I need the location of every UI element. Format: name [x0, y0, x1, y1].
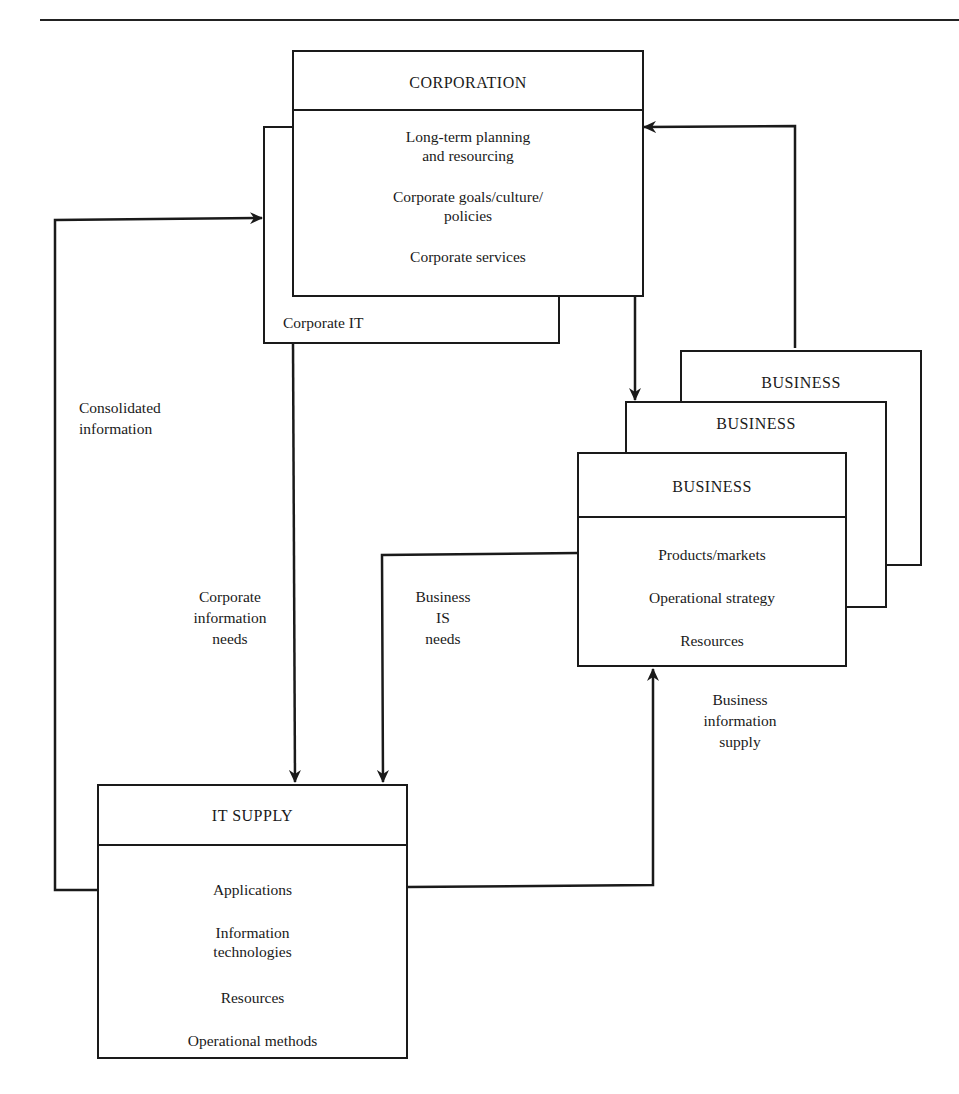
it-supply-box: IT SUPPLY Applications Information techn…	[97, 784, 408, 1059]
business-front-divider	[579, 516, 845, 518]
business-item-products: Products/markets	[579, 545, 845, 564]
corporation-title: CORPORATION	[294, 74, 642, 92]
business-to-corporation-arrow	[644, 126, 795, 348]
business-item-resources: Resources	[579, 631, 845, 650]
it-supply-divider	[99, 844, 406, 846]
business-back-title: BUSINESS	[682, 374, 920, 392]
corporation-box: CORPORATION Long-term planning and resou…	[292, 50, 644, 297]
label-business-information-supply: Business information supply	[680, 689, 800, 752]
it-supply-title: IT SUPPLY	[99, 807, 406, 825]
corporation-item-services: Corporate services	[294, 247, 642, 266]
corporation-item-goals: Corporate goals/culture/ policies	[294, 187, 642, 225]
business-front-title: BUSINESS	[579, 478, 845, 496]
it-supply-item-methods: Operational methods	[99, 1031, 406, 1050]
it-supply-item-applications: Applications	[99, 880, 406, 899]
corporate-information-needs-arrow	[293, 342, 295, 782]
corporation-item-planning: Long-term planning and resourcing	[294, 127, 642, 165]
it-supply-item-technologies: Information technologies	[99, 923, 406, 961]
corporate-it-label: Corporate IT	[283, 313, 558, 332]
business-middle-title: BUSINESS	[627, 415, 885, 433]
label-business-is-needs: Business IS needs	[398, 586, 488, 649]
corporation-divider	[294, 109, 642, 111]
it-supply-item-resources: Resources	[99, 988, 406, 1007]
label-consolidated-information: Consolidated information	[79, 397, 161, 439]
business-item-strategy: Operational strategy	[579, 588, 845, 607]
label-corporate-information-needs: Corporate information needs	[170, 586, 290, 649]
business-box-front: BUSINESS Products/markets Operational st…	[577, 452, 847, 667]
business-information-supply-arrow	[407, 669, 653, 887]
